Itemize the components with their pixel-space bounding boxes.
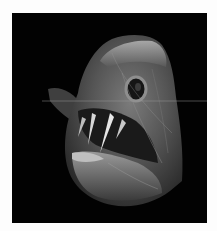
photo-frame xyxy=(12,13,207,223)
fangtooth-fish-image xyxy=(12,13,207,223)
